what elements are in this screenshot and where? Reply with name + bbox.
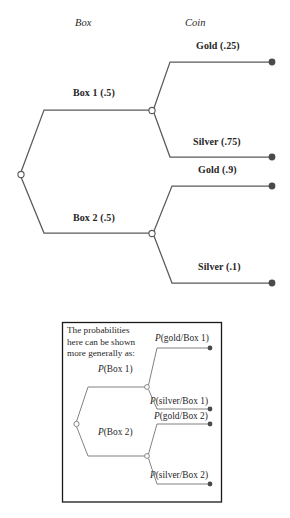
edge-root-to-box1 — [21, 110, 151, 172]
inset-endpoint-silver-box1 — [208, 407, 213, 412]
tree-lines-svg — [0, 0, 290, 518]
inset-node-root — [74, 421, 79, 426]
node-box1 — [149, 107, 155, 113]
inset-endpoint-gold-box1 — [208, 346, 213, 351]
inset-edge-box2-to-gold — [149, 424, 210, 454]
endpoint-box1-gold — [269, 59, 276, 66]
probability-tree-figure: Box Coin Box 1 (.5) Box 2 (.5) Gold (.25… — [0, 0, 290, 518]
inset-edge-root-to-box1 — [77, 387, 147, 422]
inset-edge-box1-to-silver — [149, 390, 210, 410]
inset-edge-box2-to-silver — [149, 459, 210, 485]
edge-box2-to-silver — [154, 236, 270, 283]
inset-edge-box1-to-gold — [149, 348, 210, 385]
inset-node-box1 — [145, 385, 150, 390]
inset-edge-root-to-box2 — [77, 427, 147, 457]
inset-endpoint-silver-box2 — [208, 482, 213, 487]
edge-root-to-box2 — [21, 177, 151, 233]
endpoint-box2-gold — [269, 183, 276, 190]
edge-box2-to-gold — [154, 186, 270, 231]
inset-frame — [63, 323, 222, 503]
endpoint-box1-silver — [269, 154, 276, 161]
endpoint-box2-silver — [269, 280, 276, 287]
edge-box1-to-silver — [154, 113, 270, 157]
edge-box1-to-gold — [154, 62, 270, 108]
inset-node-box2 — [145, 454, 150, 459]
node-box2 — [149, 230, 155, 236]
node-root — [18, 171, 24, 177]
inset-endpoint-gold-box2 — [208, 422, 213, 427]
